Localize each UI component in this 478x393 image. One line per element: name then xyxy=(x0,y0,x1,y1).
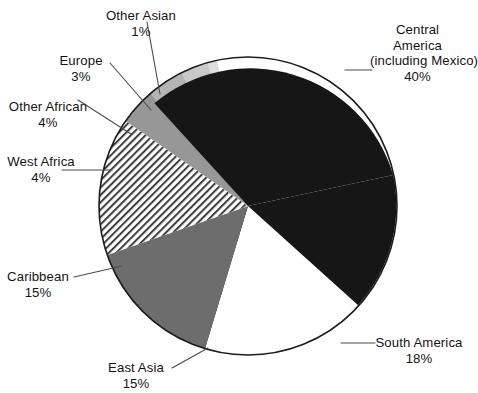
label-europe-line1: Europe xyxy=(48,53,114,69)
label-east-asia-line1: East Asia xyxy=(100,360,172,376)
label-south-america-percent: 18% xyxy=(374,351,464,367)
label-other-asian-line1: Other Asian xyxy=(98,8,184,24)
label-central-america: Central America (including Mexico) 40% xyxy=(370,22,465,84)
label-other-african: Other African 4% xyxy=(4,99,92,130)
label-south-america-line1: South America xyxy=(374,335,464,351)
label-other-asian: Other Asian 1% xyxy=(98,8,184,39)
leader-line-east-asia xyxy=(172,348,208,368)
label-east-asia-percent: 15% xyxy=(100,376,172,392)
label-caribbean: Caribbean 15% xyxy=(2,269,74,300)
label-west-africa: West Africa 4% xyxy=(2,154,80,185)
label-europe-percent: 3% xyxy=(48,69,114,85)
label-other-asian-percent: 1% xyxy=(98,24,184,40)
label-central-america-percent: 40% xyxy=(370,69,465,85)
label-east-asia: East Asia 15% xyxy=(100,360,172,391)
label-caribbean-line1: Caribbean xyxy=(2,269,74,285)
label-other-african-line1: Other African xyxy=(4,99,92,115)
label-central-america-line2: America xyxy=(370,38,465,54)
leader-line-europe xyxy=(110,63,151,110)
label-west-africa-line1: West Africa xyxy=(2,154,80,170)
label-central-america-line3: (including Mexico) xyxy=(370,53,465,69)
label-south-america: South America 18% xyxy=(374,335,464,366)
pie-slices xyxy=(99,60,396,355)
label-west-africa-percent: 4% xyxy=(2,170,80,186)
label-central-america-line1: Central xyxy=(370,22,465,38)
label-other-african-percent: 4% xyxy=(4,115,92,131)
label-europe: Europe 3% xyxy=(48,53,114,84)
label-caribbean-percent: 15% xyxy=(2,285,74,301)
